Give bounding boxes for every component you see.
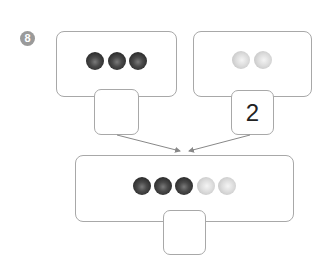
right-arrow — [189, 135, 250, 151]
dark-dot — [133, 177, 151, 195]
light-dot — [197, 177, 215, 195]
dark-dot — [154, 177, 172, 195]
total-count-box[interactable] — [163, 210, 206, 255]
light-dot — [218, 177, 236, 195]
dark-dot — [175, 177, 193, 195]
left-arrow — [117, 135, 180, 151]
